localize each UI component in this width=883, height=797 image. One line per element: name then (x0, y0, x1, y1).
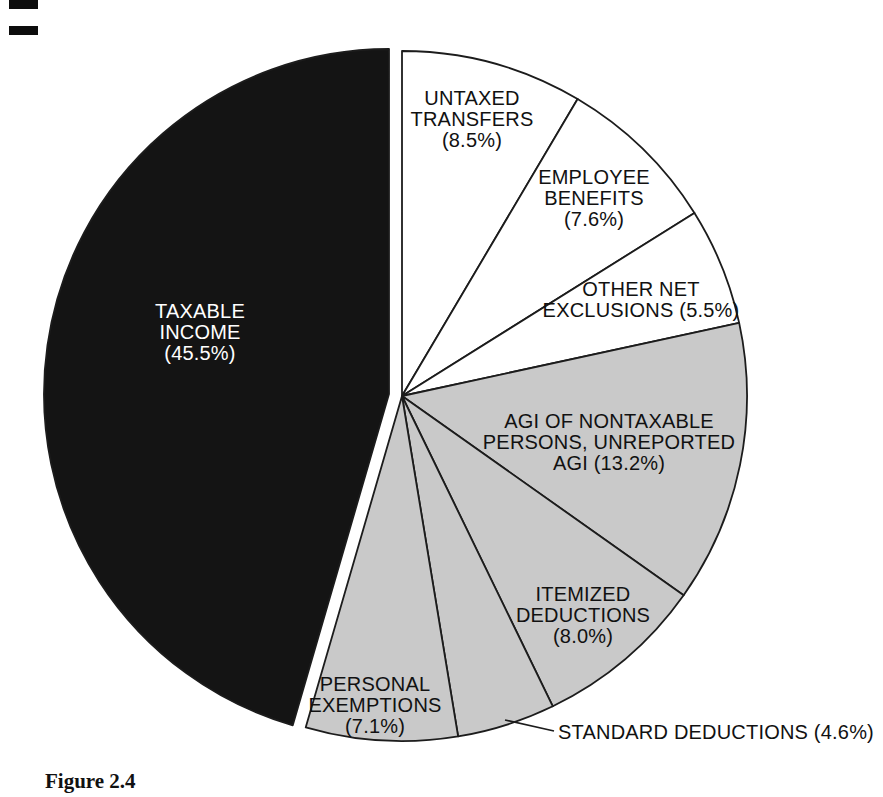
standard-deductions-leader-line (505, 720, 554, 731)
label-agi-nontaxable: AGI OF NONTAXABLE PERSONS, UNREPORTED AG… (483, 411, 735, 474)
label-untaxed-transfers: UNTAXED TRANSFERS (8.5%) (411, 88, 534, 151)
label-personal-exemptions: PERSONAL EXEMPTIONS (7.1%) (308, 674, 441, 737)
label-itemized-deductions: ITEMIZED DEDUCTIONS (8.0%) (516, 584, 650, 647)
figure-page: UNTAXED TRANSFERS (8.5%) EMPLOYEE BENEFI… (0, 0, 883, 797)
label-standard-deductions: STANDARD DEDUCTIONS (4.6%) (558, 722, 874, 743)
label-taxable-income: TAXABLE INCOME (45.5%) (155, 301, 245, 364)
label-employee-benefits: EMPLOYEE BENEFITS (7.6%) (538, 167, 650, 230)
label-other-net-exclusions: OTHER NET EXCLUSIONS (5.5%) (543, 279, 740, 321)
figure-caption: Figure 2.4 (45, 769, 136, 794)
